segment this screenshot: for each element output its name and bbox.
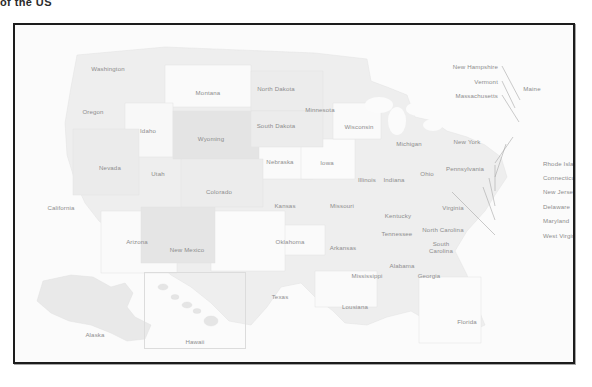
state-label-lousiana: Lousiana (342, 303, 368, 310)
state-label-nebraska: Nebraska (266, 158, 293, 165)
state-label-north-dakota: North Dakota (257, 85, 295, 92)
state-label-missouri: Missouri (330, 202, 354, 209)
callout-label-west-virginia: West Virginia (543, 232, 575, 239)
callout-label-rhode-island: Rhode Island (543, 160, 575, 167)
state-label-michigan: Michigan (396, 140, 422, 147)
state-label-iowa: Iowa (320, 159, 333, 166)
state-label-idaho: Idaho (140, 127, 156, 134)
state-label-nevada: Nevada (99, 164, 121, 171)
state-label-pennsylvania: Pennsylvania (446, 165, 484, 172)
callout-label-maryland: Maryland (543, 217, 569, 224)
state-label-georgia: Georgia (418, 272, 441, 279)
state-label-mississippi: Mississippi (351, 272, 382, 279)
state-label-wisconsin: Wisconsin (344, 123, 373, 130)
callout-label-massachusetts: Massachusetts (455, 92, 498, 99)
state-label-colorado: Colorado (206, 188, 232, 195)
state-label-alaska: Alaska (85, 330, 104, 337)
state-label-virginia: Virginia (442, 204, 463, 211)
callout-label-vermont: Vermont (474, 78, 498, 85)
state-label-south-carolina: South Carolina (424, 240, 458, 254)
callout-label-delaware: Delaware (543, 203, 570, 210)
state-label-north-carolina: North Carolina (422, 226, 463, 233)
map-frame: WashingtonOregonIdahoMontanaWyomingNevad… (13, 23, 575, 364)
callout-label-new-hampshire: New Hampshire (453, 63, 498, 70)
state-label-arizona: Arizona (126, 238, 148, 245)
callout-label-new-jersey: New Jersey (543, 188, 575, 195)
state-label-utah: Utah (151, 169, 164, 176)
cut-off-page-title: of the US (0, 0, 180, 6)
state-label-maine: Maine (523, 85, 540, 92)
state-label-tennessee: Tennessee (382, 230, 413, 237)
state-label-illinois: Illinois (358, 176, 376, 183)
state-label-hawaii: Hawaii (185, 338, 204, 345)
state-label-south-dakota: South Dakota (257, 122, 296, 129)
state-label-indiana: Indiana (383, 176, 404, 183)
state-label-alabama: Alabama (389, 261, 414, 268)
callout-label-connecticut: Connecticut (543, 174, 575, 181)
state-label-oklahoma: Oklahoma (276, 238, 305, 245)
state-label-new-york: New York (454, 138, 481, 145)
state-label-ohio: Ohio (420, 169, 433, 176)
state-label-new-mexico: New Mexico (170, 246, 205, 253)
state-label-arkansas: Arkansas (330, 244, 357, 251)
state-label-florida: Florida (457, 317, 477, 324)
state-label-minnesota: Minnesota (305, 106, 334, 113)
state-label-washington: Washington (91, 65, 124, 72)
us-map-graphic (15, 25, 573, 362)
state-label-california: California (47, 204, 74, 211)
state-label-wyoming: Wyoming (198, 135, 224, 142)
state-label-montana: Montana (196, 89, 221, 96)
state-label-texas: Texas (272, 293, 289, 300)
state-label-oregon: Oregon (82, 108, 103, 115)
state-label-kansas: Kansas (274, 202, 295, 209)
state-label-kentucky: Kentucky (385, 212, 411, 219)
